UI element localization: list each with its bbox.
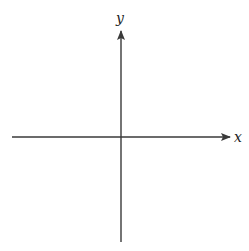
x-axis-label: x [234, 129, 242, 145]
coordinate-axes: x y [0, 0, 249, 251]
y-axis-label: y [115, 10, 125, 26]
